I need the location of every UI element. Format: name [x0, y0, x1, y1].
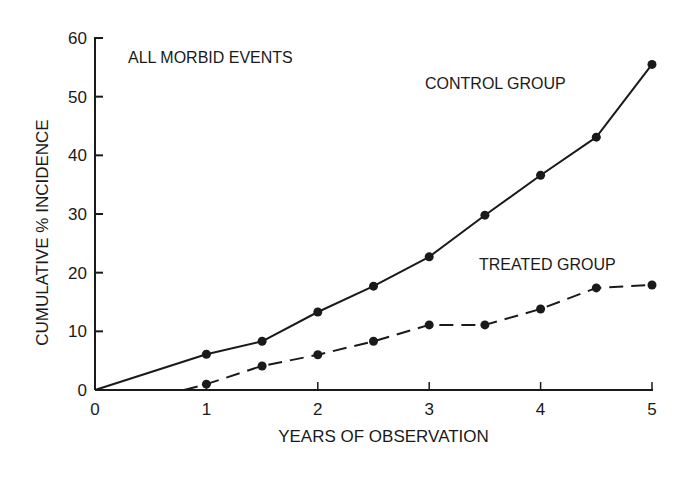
- data-point-control: [536, 171, 545, 180]
- data-point-control: [369, 282, 378, 291]
- y-tick-label: 30: [68, 205, 87, 224]
- data-point-treated: [258, 361, 267, 370]
- series-layer: [95, 60, 657, 390]
- y-tick-label: 40: [68, 146, 87, 165]
- data-point-control: [425, 252, 434, 261]
- x-tick-label: 0: [90, 400, 99, 419]
- data-point-treated: [592, 283, 601, 292]
- x-tick-label: 3: [424, 400, 433, 419]
- x-tick-label: 1: [202, 400, 211, 419]
- data-point-treated: [536, 305, 545, 314]
- x-tick-label: 5: [647, 400, 656, 419]
- x-axis-title: YEARS OF OBSERVATION: [278, 427, 489, 446]
- y-tick-label: 20: [68, 264, 87, 283]
- y-tick-label: 50: [68, 88, 87, 107]
- line-chart: 0102030405060012345YEARS OF OBSERVATIONC…: [0, 0, 694, 481]
- x-tick-label: 4: [536, 400, 545, 419]
- x-tick-label: 2: [313, 400, 322, 419]
- data-point-control: [480, 211, 489, 220]
- label-control-group: CONTROL GROUP: [425, 75, 566, 92]
- labels-layer: 0102030405060012345YEARS OF OBSERVATIONC…: [33, 29, 657, 446]
- label-treated-group: TREATED GROUP: [479, 256, 616, 273]
- data-point-treated: [425, 320, 434, 329]
- data-point-control: [592, 133, 601, 142]
- y-tick-label: 60: [68, 29, 87, 48]
- y-tick-label: 0: [78, 381, 87, 400]
- data-point-treated: [480, 320, 489, 329]
- data-point-treated: [648, 280, 657, 289]
- series-line-treated: [184, 285, 652, 390]
- data-point-treated: [369, 337, 378, 346]
- data-point-control: [313, 307, 322, 316]
- data-point-control: [648, 60, 657, 69]
- data-point-treated: [313, 350, 322, 359]
- data-point-control: [202, 350, 211, 359]
- y-axis-title: CUMULATIVE % INCIDENCE: [33, 119, 52, 345]
- data-point-treated: [202, 380, 211, 389]
- y-tick-label: 10: [68, 322, 87, 341]
- data-point-control: [258, 337, 267, 346]
- chart-title: ALL MORBID EVENTS: [128, 49, 293, 66]
